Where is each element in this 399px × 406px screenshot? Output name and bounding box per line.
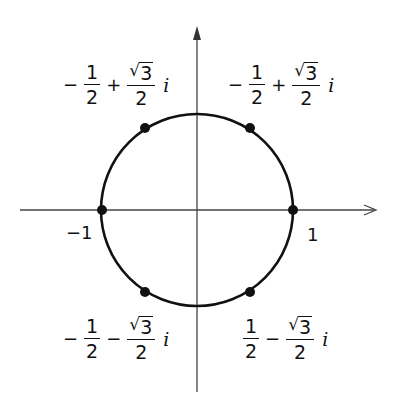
fraction-real: 1 2 — [84, 317, 100, 361]
operator: + — [106, 76, 121, 94]
imaginary-unit: i — [328, 76, 334, 95]
fraction-real: 1 2 — [249, 63, 265, 107]
denominator: 2 — [245, 339, 257, 361]
point-1 — [288, 205, 298, 215]
denominator: 2 — [86, 85, 98, 107]
fraction-imag: √3 2 — [127, 316, 155, 362]
sign: − — [63, 330, 78, 348]
label-top-left: − 1 2 + √3 2 i — [60, 62, 169, 108]
denominator: 2 — [294, 340, 306, 362]
point-240 — [140, 287, 150, 297]
point-60 — [245, 123, 255, 133]
imaginary-unit: i — [163, 76, 169, 95]
fraction-imag: √3 2 — [286, 316, 314, 362]
label-bottom-right: 1 2 − √3 2 i — [240, 316, 328, 362]
imaginary-unit: i — [163, 330, 169, 349]
operator: − — [106, 330, 121, 348]
point-120 — [140, 123, 150, 133]
sqrt-numerator: √3 — [127, 316, 155, 340]
label-bottom-left: − 1 2 − √3 2 i — [60, 316, 169, 362]
sqrt-numerator: √3 — [286, 316, 314, 340]
operator: − — [265, 330, 280, 348]
radicand: 3 — [139, 316, 153, 337]
fraction-real: 1 2 — [243, 317, 259, 361]
imaginary-axis-arrow-icon — [193, 26, 201, 40]
radicand: 3 — [304, 62, 318, 83]
fraction-imag: √3 2 — [127, 62, 155, 108]
axis-label-neg-one: −1 — [66, 222, 93, 243]
sqrt-numerator: √3 — [292, 62, 320, 86]
fraction-imag: √3 2 — [292, 62, 320, 108]
numerator: 1 — [249, 63, 265, 85]
sign: − — [63, 76, 78, 94]
denominator: 2 — [300, 86, 312, 108]
numerator: 1 — [243, 317, 259, 339]
sign: − — [228, 76, 243, 94]
denominator: 2 — [135, 340, 147, 362]
denominator: 2 — [86, 339, 98, 361]
denominator: 2 — [251, 85, 263, 107]
numerator: 1 — [84, 63, 100, 85]
axis-label-one: 1 — [307, 224, 318, 245]
radicand: 3 — [298, 316, 312, 337]
sqrt-numerator: √3 — [127, 62, 155, 86]
point-180 — [97, 205, 107, 215]
operator: + — [271, 76, 286, 94]
denominator: 2 — [135, 86, 147, 108]
fraction-real: 1 2 — [84, 63, 100, 107]
label-top-right: − 1 2 + √3 2 i — [225, 62, 334, 108]
numerator: 1 — [84, 317, 100, 339]
point-300 — [245, 287, 255, 297]
radicand: 3 — [139, 62, 153, 83]
imaginary-unit: i — [322, 330, 328, 349]
